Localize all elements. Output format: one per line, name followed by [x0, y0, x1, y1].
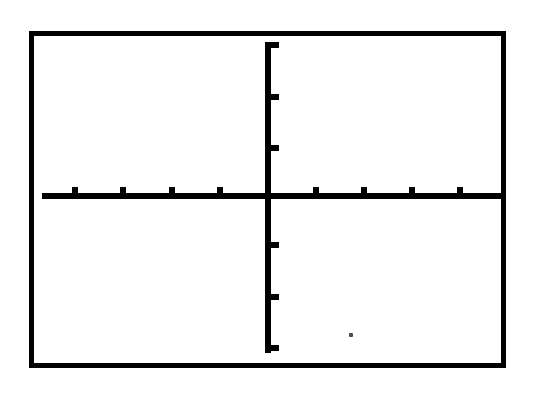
x-axis-tick — [169, 187, 175, 194]
y-axis-tick — [271, 294, 279, 300]
screen-border-right — [501, 33, 506, 368]
x-axis-tick — [217, 187, 223, 194]
y-axis-tick — [271, 145, 279, 151]
calculator-screen[interactable] — [29, 31, 506, 368]
y-axis-tick — [271, 242, 279, 248]
screen-border-bottom — [29, 363, 506, 368]
y-axis-tick — [271, 345, 279, 351]
y-axis-tick — [271, 94, 279, 100]
x-axis — [42, 193, 501, 199]
x-axis-tick — [457, 187, 463, 194]
x-axis-tick — [72, 187, 78, 194]
x-axis-tick — [361, 187, 367, 194]
x-axis-tick — [313, 187, 319, 194]
screenshot-root — [0, 0, 536, 394]
x-axis-tick — [409, 187, 415, 194]
plot-area[interactable] — [34, 36, 501, 363]
y-axis-tick — [271, 42, 279, 48]
x-axis-tick — [120, 187, 126, 194]
scan-speck — [349, 333, 353, 337]
y-axis — [265, 42, 271, 353]
